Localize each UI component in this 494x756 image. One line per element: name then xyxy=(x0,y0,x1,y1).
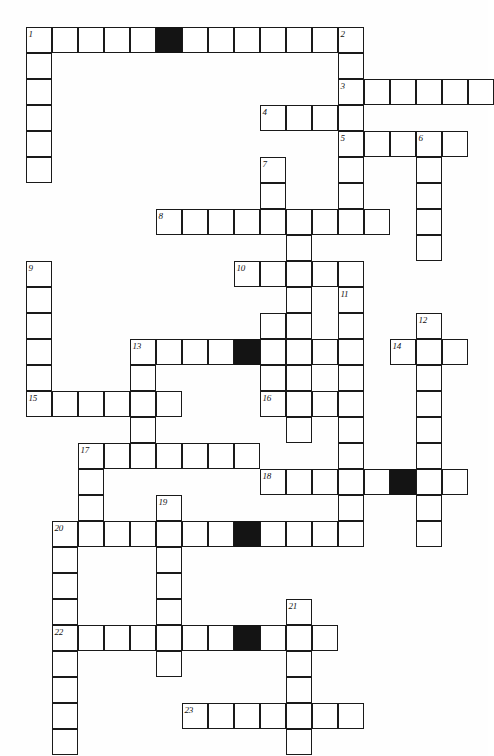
letter-cell[interactable] xyxy=(338,417,364,443)
letter-cell[interactable] xyxy=(260,157,286,183)
letter-cell[interactable] xyxy=(52,677,78,703)
letter-cell[interactable] xyxy=(156,495,182,521)
letter-cell[interactable] xyxy=(156,599,182,625)
letter-cell[interactable] xyxy=(364,131,390,157)
letter-cell[interactable] xyxy=(286,105,312,131)
letter-cell[interactable] xyxy=(338,53,364,79)
letter-cell[interactable] xyxy=(26,339,52,365)
letter-cell[interactable] xyxy=(416,79,442,105)
letter-cell[interactable] xyxy=(234,443,260,469)
letter-cell[interactable] xyxy=(156,443,182,469)
letter-cell[interactable] xyxy=(208,703,234,729)
letter-cell[interactable] xyxy=(52,521,78,547)
letter-cell[interactable] xyxy=(338,27,364,53)
letter-cell[interactable] xyxy=(338,79,364,105)
letter-cell[interactable] xyxy=(208,625,234,651)
letter-cell[interactable] xyxy=(338,183,364,209)
letter-cell[interactable] xyxy=(26,53,52,79)
letter-cell[interactable] xyxy=(260,27,286,53)
letter-cell[interactable] xyxy=(182,27,208,53)
letter-cell[interactable] xyxy=(338,157,364,183)
letter-cell[interactable] xyxy=(234,703,260,729)
letter-cell[interactable] xyxy=(26,157,52,183)
letter-cell[interactable] xyxy=(52,599,78,625)
letter-cell[interactable] xyxy=(130,625,156,651)
letter-cell[interactable] xyxy=(130,521,156,547)
letter-cell[interactable] xyxy=(260,365,286,391)
letter-cell[interactable] xyxy=(312,625,338,651)
letter-cell[interactable] xyxy=(182,209,208,235)
letter-cell[interactable] xyxy=(52,573,78,599)
letter-cell[interactable] xyxy=(286,521,312,547)
letter-cell[interactable] xyxy=(260,105,286,131)
letter-cell[interactable] xyxy=(260,209,286,235)
letter-cell[interactable] xyxy=(286,365,312,391)
letter-cell[interactable] xyxy=(286,729,312,755)
letter-cell[interactable] xyxy=(338,495,364,521)
letter-cell[interactable] xyxy=(26,131,52,157)
letter-cell[interactable] xyxy=(338,209,364,235)
letter-cell[interactable] xyxy=(416,417,442,443)
letter-cell[interactable] xyxy=(182,443,208,469)
letter-cell[interactable] xyxy=(104,521,130,547)
letter-cell[interactable] xyxy=(338,521,364,547)
letter-cell[interactable] xyxy=(78,391,104,417)
letter-cell[interactable] xyxy=(156,521,182,547)
letter-cell[interactable] xyxy=(416,157,442,183)
letter-cell[interactable] xyxy=(442,79,468,105)
letter-cell[interactable] xyxy=(78,27,104,53)
letter-cell[interactable] xyxy=(286,27,312,53)
letter-cell[interactable] xyxy=(52,729,78,755)
letter-cell[interactable] xyxy=(338,287,364,313)
letter-cell[interactable] xyxy=(104,625,130,651)
letter-cell[interactable] xyxy=(234,261,260,287)
letter-cell[interactable] xyxy=(52,391,78,417)
letter-cell[interactable] xyxy=(338,365,364,391)
letter-cell[interactable] xyxy=(442,339,468,365)
letter-cell[interactable] xyxy=(130,339,156,365)
letter-cell[interactable] xyxy=(156,625,182,651)
letter-cell[interactable] xyxy=(416,391,442,417)
letter-cell[interactable] xyxy=(208,209,234,235)
letter-cell[interactable] xyxy=(338,261,364,287)
letter-cell[interactable] xyxy=(312,339,338,365)
letter-cell[interactable] xyxy=(286,209,312,235)
letter-cell[interactable] xyxy=(416,365,442,391)
letter-cell[interactable] xyxy=(208,27,234,53)
letter-cell[interactable] xyxy=(104,391,130,417)
letter-cell[interactable] xyxy=(312,469,338,495)
letter-cell[interactable] xyxy=(156,209,182,235)
letter-cell[interactable] xyxy=(286,677,312,703)
letter-cell[interactable] xyxy=(286,651,312,677)
letter-cell[interactable] xyxy=(130,417,156,443)
letter-cell[interactable] xyxy=(52,547,78,573)
letter-cell[interactable] xyxy=(338,391,364,417)
letter-cell[interactable] xyxy=(338,105,364,131)
letter-cell[interactable] xyxy=(468,79,494,105)
letter-cell[interactable] xyxy=(156,339,182,365)
letter-cell[interactable] xyxy=(234,27,260,53)
letter-cell[interactable] xyxy=(52,27,78,53)
letter-cell[interactable] xyxy=(312,703,338,729)
letter-cell[interactable] xyxy=(26,105,52,131)
letter-cell[interactable] xyxy=(390,79,416,105)
letter-cell[interactable] xyxy=(416,521,442,547)
letter-cell[interactable] xyxy=(338,339,364,365)
letter-cell[interactable] xyxy=(286,313,312,339)
letter-cell[interactable] xyxy=(312,391,338,417)
letter-cell[interactable] xyxy=(338,443,364,469)
letter-cell[interactable] xyxy=(312,209,338,235)
letter-cell[interactable] xyxy=(260,469,286,495)
letter-cell[interactable] xyxy=(260,261,286,287)
letter-cell[interactable] xyxy=(78,469,104,495)
letter-cell[interactable] xyxy=(130,443,156,469)
letter-cell[interactable] xyxy=(338,313,364,339)
letter-cell[interactable] xyxy=(260,625,286,651)
letter-cell[interactable] xyxy=(156,391,182,417)
letter-cell[interactable] xyxy=(26,365,52,391)
letter-cell[interactable] xyxy=(182,703,208,729)
letter-cell[interactable] xyxy=(338,703,364,729)
letter-cell[interactable] xyxy=(78,521,104,547)
letter-cell[interactable] xyxy=(182,339,208,365)
letter-cell[interactable] xyxy=(364,469,390,495)
